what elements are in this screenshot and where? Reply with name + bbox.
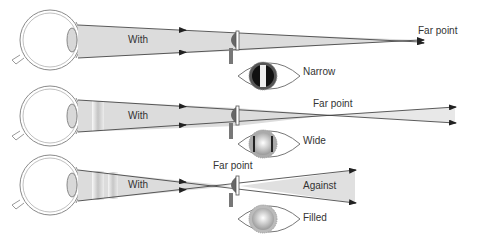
row-1 bbox=[12, 10, 424, 90]
retinoscope-icon bbox=[229, 176, 239, 207]
reflex-narrow-icon bbox=[238, 62, 300, 90]
against-label: Against bbox=[303, 181, 336, 191]
motion-label: With bbox=[128, 35, 148, 45]
eyeball-icon bbox=[12, 155, 82, 215]
reflex-label: Narrow bbox=[303, 67, 335, 77]
motion-label: With bbox=[128, 180, 148, 190]
reflex-wide-icon bbox=[238, 130, 300, 158]
row-2 bbox=[12, 86, 456, 158]
far-point-label: Far point bbox=[213, 161, 252, 171]
reflex-filled-icon bbox=[238, 205, 300, 233]
eyeball-icon bbox=[12, 86, 82, 146]
eyeball-icon bbox=[12, 10, 82, 70]
retinoscopy-diagram bbox=[0, 0, 492, 242]
reflex-label: Wide bbox=[303, 136, 326, 146]
far-point-label: Far point bbox=[313, 99, 352, 109]
far-point-label: Far point bbox=[418, 26, 457, 36]
motion-label: With bbox=[128, 111, 148, 121]
reflex-label: Filled bbox=[303, 213, 327, 223]
